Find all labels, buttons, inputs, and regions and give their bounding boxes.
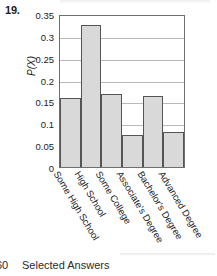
footer-section-title: Selected Answers bbox=[22, 259, 109, 271]
y-tick-label: 0.1 bbox=[41, 119, 54, 130]
x-axis-tick-labels: Some High SchoolHigh SchoolSome CollegeA… bbox=[59, 169, 185, 255]
y-tick-label: 0.2 bbox=[41, 75, 54, 86]
footer-bleed bbox=[120, 253, 215, 256]
y-tick-label: 0.35 bbox=[36, 10, 55, 21]
bar bbox=[101, 94, 122, 167]
bar bbox=[122, 135, 143, 167]
bar-series bbox=[60, 16, 184, 167]
bar bbox=[81, 25, 102, 167]
bar bbox=[163, 132, 184, 167]
footer-page-number: 60 bbox=[0, 259, 8, 271]
y-tick-label: 0.25 bbox=[36, 53, 55, 64]
bar bbox=[60, 98, 81, 167]
page-footer: 60 Selected Answers bbox=[0, 259, 217, 273]
y-axis-tick-labels: 00.050.10.150.20.250.30.35 bbox=[0, 0, 57, 255]
answer-figure-page: 19. 00.050.10.150.20.250.30.35 P(X) Some… bbox=[0, 0, 217, 276]
y-tick-label: 0.15 bbox=[36, 97, 55, 108]
plot-area bbox=[59, 15, 185, 168]
bar bbox=[143, 96, 164, 167]
bar-chart: 00.050.10.150.20.250.30.35 P(X) Some Hig… bbox=[0, 0, 217, 255]
y-tick-label: 0 bbox=[49, 163, 54, 174]
y-axis-title: P(X) bbox=[26, 56, 37, 76]
y-tick-label: 0.3 bbox=[41, 31, 54, 42]
y-tick-label: 0.05 bbox=[36, 141, 55, 152]
